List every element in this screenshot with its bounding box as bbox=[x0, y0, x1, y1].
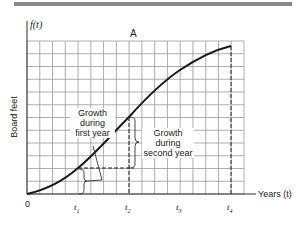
annotation-first-year-line1: Growth bbox=[70, 108, 115, 118]
tick-t2: t2 bbox=[125, 202, 131, 216]
annotation-first-year: Growth during first year bbox=[70, 108, 115, 138]
annotation-second-year: Growth during second year bbox=[142, 128, 194, 158]
annotation-first-year-line3: first year bbox=[70, 128, 115, 138]
panel-label: A bbox=[130, 29, 137, 39]
y-function-label: f(t) bbox=[30, 20, 42, 30]
origin-label: 0 bbox=[25, 199, 30, 209]
y-axis-label: Board feet bbox=[9, 92, 19, 142]
leader-first-year bbox=[87, 146, 102, 181]
x-axis-label: Years (t) bbox=[258, 189, 292, 199]
tick-t1: t1 bbox=[74, 202, 80, 216]
annotation-second-year-line2: during bbox=[142, 138, 194, 148]
tick-t3: t3 bbox=[176, 202, 182, 216]
annotation-second-year-line3: second year bbox=[142, 148, 194, 158]
annotation-first-year-line2: during bbox=[70, 118, 115, 128]
tick-t4: t4 bbox=[227, 202, 233, 216]
brace-second-year bbox=[130, 117, 139, 168]
annotation-second-year-line1: Growth bbox=[142, 128, 194, 138]
grid bbox=[27, 41, 244, 194]
